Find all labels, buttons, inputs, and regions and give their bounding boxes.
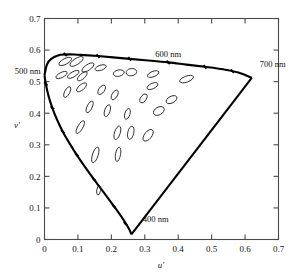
locus-wavelength-tick bbox=[128, 57, 131, 60]
macadam-ellipse bbox=[62, 86, 72, 99]
macadam-ellipse bbox=[147, 69, 160, 78]
purple-line bbox=[131, 78, 251, 235]
y-tick-label: 0 bbox=[36, 235, 41, 245]
macadam-ellipse bbox=[165, 94, 178, 105]
macadam-ellipse bbox=[141, 128, 155, 143]
y-tick-label: 0.5 bbox=[29, 77, 41, 87]
x-tick-label: 0.3 bbox=[139, 244, 151, 254]
y-tick-label: 0.7 bbox=[29, 14, 41, 24]
locus-wavelength-tick bbox=[112, 205, 115, 208]
locus-wavelength-tick bbox=[96, 54, 99, 57]
label-600nm: 600 nm bbox=[155, 49, 181, 59]
locus-wavelength-tick bbox=[64, 53, 67, 56]
chromaticity-plot: 00.10.20.30.40.50.60.700.10.20.30.40.50.… bbox=[0, 0, 298, 275]
locus-wavelength-tick bbox=[75, 153, 78, 156]
macadam-ellipse bbox=[110, 89, 120, 101]
macadam-ellipse bbox=[123, 108, 131, 120]
x-tick-label: 0.4 bbox=[173, 244, 185, 254]
x-axis-title: u′ bbox=[158, 260, 166, 270]
x-tick-label: 0.5 bbox=[206, 244, 218, 254]
macadam-ellipse bbox=[94, 64, 107, 72]
y-tick-label: 0.1 bbox=[29, 203, 40, 213]
macadam-ellipse bbox=[90, 146, 100, 163]
locus-wavelength-tick bbox=[61, 130, 64, 133]
locus-wavelength-tick bbox=[124, 222, 127, 225]
label-400nm: 400 nm bbox=[143, 214, 169, 224]
x-tick-label: 0 bbox=[42, 244, 47, 254]
chromaticity-diagram-figure: 00.10.20.30.40.50.60.700.10.20.30.40.50.… bbox=[0, 0, 298, 275]
macadam-ellipse bbox=[103, 104, 112, 117]
macadam-ellipses bbox=[55, 55, 194, 195]
y-tick-label: 0.4 bbox=[29, 109, 41, 119]
macadam-ellipse bbox=[126, 68, 138, 77]
label-500nm: 500 nm bbox=[15, 66, 41, 76]
macadam-ellipse bbox=[138, 93, 148, 105]
macadam-ellipse bbox=[74, 120, 86, 135]
macadam-ellipse bbox=[146, 81, 159, 91]
macadam-ellipse bbox=[55, 70, 68, 80]
macadam-ellipse bbox=[152, 105, 166, 117]
macadam-ellipse bbox=[75, 81, 88, 93]
macadam-ellipse bbox=[69, 55, 85, 68]
macadam-ellipse bbox=[114, 147, 121, 162]
locus-wavelength-tick bbox=[231, 70, 234, 73]
y-axis-title: v′ bbox=[14, 120, 21, 130]
y-tick-label: 0.3 bbox=[29, 140, 41, 150]
x-tick-label: 0.7 bbox=[273, 244, 285, 254]
locus-wavelength-tick bbox=[203, 65, 206, 68]
y-tick-label: 0.2 bbox=[29, 172, 40, 182]
macadam-ellipse bbox=[126, 126, 135, 140]
locus-lower-arc bbox=[45, 75, 132, 234]
macadam-ellipse bbox=[85, 100, 95, 114]
macadam-ellipse bbox=[81, 61, 96, 74]
label-700nm: 700 nm bbox=[260, 59, 286, 69]
macadam-ellipse bbox=[66, 69, 80, 80]
macadam-ellipse bbox=[113, 69, 125, 77]
y-tick-label: 0.6 bbox=[29, 45, 41, 55]
macadam-ellipse bbox=[112, 125, 122, 140]
macadam-ellipse bbox=[96, 84, 107, 96]
x-tick-label: 0.6 bbox=[239, 244, 251, 254]
x-tick-label: 0.1 bbox=[72, 244, 83, 254]
spectral-locus bbox=[45, 54, 252, 234]
x-tick-label: 0.2 bbox=[106, 244, 117, 254]
locus-wavelength-tick bbox=[167, 61, 170, 64]
locus-wavelength-tick bbox=[93, 178, 96, 181]
locus-wavelength-tick bbox=[51, 106, 54, 109]
macadam-ellipse bbox=[179, 74, 195, 85]
